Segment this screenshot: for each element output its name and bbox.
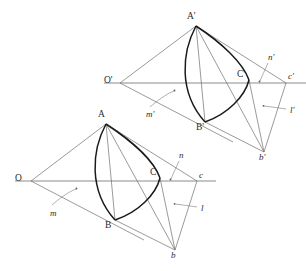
label-m-prime: m' <box>146 110 154 119</box>
upper-leader-l-dot <box>263 105 265 107</box>
lower-edge-B-b <box>115 220 175 250</box>
upper-figure-group <box>104 26 306 152</box>
lower-edge-O-B <box>31 181 144 240</box>
upper-leader-n <box>260 63 268 81</box>
lower-edge-C-b <box>160 178 175 250</box>
label-m: m <box>50 209 57 218</box>
upper-edge-C-b <box>249 80 264 152</box>
upper-leader-l <box>264 106 286 109</box>
label-l-prime: l' <box>290 106 294 115</box>
lower-edge-A-b <box>106 124 175 250</box>
lower-curve-A-B <box>95 124 115 220</box>
label-c: c <box>199 171 203 180</box>
label-C-prime: C' <box>237 70 245 80</box>
label-n: n <box>179 151 184 160</box>
geometry-canvas <box>0 0 306 271</box>
label-b-prime: b' <box>259 153 265 162</box>
label-O-prime: O' <box>104 76 113 86</box>
label-b: b <box>171 251 176 260</box>
lower-leader-n-dot <box>170 179 172 181</box>
upper-curve-A-B <box>185 26 205 122</box>
upper-edge-A-b <box>196 26 264 152</box>
label-l: l <box>201 204 204 213</box>
label-O: O <box>15 174 22 184</box>
geometry-figure: O' A' B' C' c' b' m' n' l' O A B C c b m… <box>0 0 306 271</box>
lower-curve-C-B <box>115 178 160 220</box>
label-C: C <box>150 168 156 178</box>
lower-leader-l <box>175 204 197 207</box>
label-A: A <box>98 110 105 120</box>
label-B-prime: B' <box>196 123 204 133</box>
label-B: B <box>105 221 111 231</box>
lower-leader-l-dot <box>174 203 176 205</box>
lower-edge-c-b <box>175 181 197 250</box>
lower-figure-group <box>15 124 216 250</box>
label-c-prime: c' <box>288 72 294 81</box>
upper-edge-O-B <box>120 83 233 142</box>
upper-leader-n-dot <box>259 81 261 83</box>
upper-leader-m-dot <box>174 90 176 92</box>
lower-leader-n <box>171 161 179 179</box>
upper-edge-c-b <box>264 83 286 152</box>
lower-leader-m-dot <box>76 188 78 190</box>
upper-edge-B-b <box>205 122 264 152</box>
label-A-prime: A' <box>187 12 196 22</box>
upper-curve-C-B <box>205 80 249 122</box>
label-n-prime: n' <box>268 53 274 62</box>
